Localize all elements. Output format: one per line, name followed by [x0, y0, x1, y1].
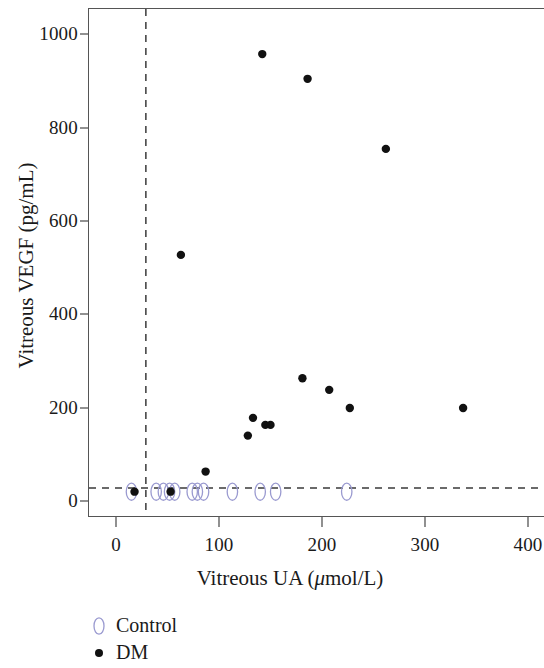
dm-data-point [177, 251, 185, 259]
dm-data-point [244, 431, 252, 439]
control-data-point [342, 483, 352, 500]
dm-data-point [382, 145, 390, 153]
control-series-markers [126, 483, 352, 500]
control-data-point [198, 483, 208, 500]
dm-data-point [303, 75, 311, 83]
dm-data-point [166, 487, 174, 495]
tick-marks [80, 34, 528, 527]
legend-row-dm: DM [86, 639, 326, 666]
control-data-point [270, 483, 280, 500]
scatter-figure: 1000 800 600 400 200 0 0 100 200 300 400… [0, 0, 544, 668]
dm-data-point [298, 374, 306, 382]
legend-label-dm: DM [112, 641, 148, 664]
legend-row-control: Control [86, 612, 326, 639]
dm-data-point [266, 421, 274, 429]
legend-label-control: Control [112, 614, 177, 637]
dm-series-markers [130, 50, 467, 496]
control-data-point [255, 483, 265, 500]
legend: Control DM [86, 612, 326, 666]
dm-data-point [346, 404, 354, 412]
dm-data-point [258, 50, 266, 58]
dm-data-point [459, 404, 467, 412]
dm-data-point [201, 467, 209, 475]
dm-data-point [249, 414, 257, 422]
dm-data-point [130, 487, 138, 495]
plot-data-layer [0, 0, 544, 668]
control-data-point [227, 483, 237, 500]
control-marker-icon [86, 616, 112, 636]
dm-marker-icon [86, 643, 112, 663]
dm-data-point [325, 386, 333, 394]
reference-lines [89, 9, 544, 516]
